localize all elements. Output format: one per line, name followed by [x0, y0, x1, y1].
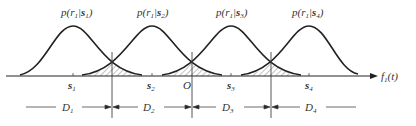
density-label-3: p(r1|s3) — [215, 6, 248, 20]
density-curve-3 — [162, 26, 301, 75]
point-label-s3: s3 — [226, 79, 235, 93]
region-label-d1: D1 — [61, 101, 73, 115]
axis-arrow-icon — [370, 73, 378, 79]
region-label-d4: D4 — [304, 101, 317, 115]
point-label-origin: O — [183, 79, 191, 91]
point-label-s4: s4 — [304, 79, 313, 93]
density-curve-2 — [82, 26, 222, 75]
point-labels: s1 s2 O s3 s4 — [67, 79, 313, 93]
density-label-1: p(r1|s1) — [60, 6, 93, 20]
region-label-d3: D3 — [221, 101, 234, 115]
point-label-s2: s2 — [146, 79, 155, 93]
axis-label: f1(t) — [381, 70, 398, 84]
density-labels: p(r1|s1) p(r1|s2) p(r1|s3) p(r1|s4) — [60, 6, 324, 20]
point-label-s1: s1 — [67, 79, 76, 93]
region-label-d2: D2 — [142, 101, 155, 115]
density-label-2: p(r1|s2) — [136, 6, 169, 20]
density-label-4: p(r1|s4) — [291, 6, 324, 20]
signal-decision-diagram: p(r1|s1) p(r1|s2) p(r1|s3) p(r1|s4) s1 s… — [0, 0, 416, 126]
